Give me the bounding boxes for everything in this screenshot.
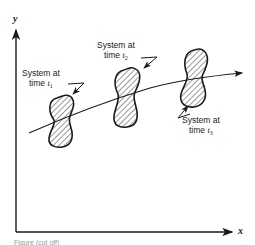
leader-t1: [68, 83, 84, 94]
system-region-t3: [181, 49, 208, 107]
system-trajectory-diagram: y x System at time t1 System at time t2 …: [0, 0, 255, 245]
x-axis-label: x: [238, 225, 243, 236]
label-t3: System at time t3: [182, 115, 220, 136]
y-axis-label: y: [13, 13, 17, 24]
system-region-t2: [114, 68, 140, 128]
figure-caption: Figure (cut off): [14, 239, 59, 245]
leader-t2: [141, 57, 157, 68]
system-region-t1: [49, 95, 74, 147]
label-t2: System at time t2: [97, 40, 135, 61]
label-t1: System at time t1: [22, 68, 60, 89]
